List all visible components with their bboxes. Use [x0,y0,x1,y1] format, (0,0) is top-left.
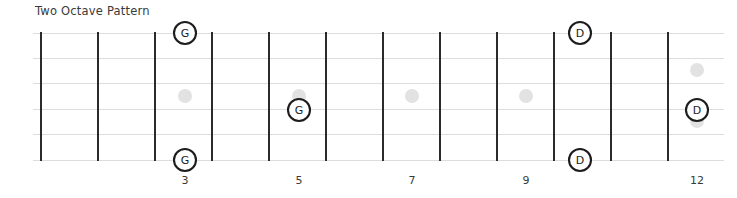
string-lines-group [33,33,724,160]
fret-number-5: 5 [296,174,303,187]
fret-numbers-group: 357912 [182,174,705,187]
fret-number-3: 3 [182,174,189,187]
inlay-dot-fret-12 [690,63,704,77]
note-marker-G-fret-3-string-6[interactable]: G [174,149,196,171]
note-label: D [576,154,584,167]
fretboard-diagram: Two Octave Pattern GGGDDD 357912 [0,0,737,198]
inlay-dot-fret-7 [405,89,419,103]
inlay-dot-fret-3 [178,89,192,103]
fretboard-graphic: GGGDDD 357912 [0,0,737,198]
fret-number-12: 12 [690,174,704,187]
note-label: G [295,104,304,117]
inlay-dot-fret-9 [519,89,533,103]
note-marker-D-fret-10-string-6[interactable]: D [569,149,591,171]
note-label: G [181,27,190,40]
note-marker-G-fret-3-string-1[interactable]: G [174,22,196,44]
note-label: D [693,104,701,117]
note-marker-D-fret-10-string-1[interactable]: D [569,22,591,44]
note-marker-D-fret-12-string-4[interactable]: D [686,99,708,121]
fret-lines-group [41,32,668,161]
fret-number-7: 7 [409,174,416,187]
note-marker-G-fret-5-string-4[interactable]: G [288,99,310,121]
note-label: D [576,27,584,40]
note-label: G [181,154,190,167]
fret-number-9: 9 [523,174,530,187]
